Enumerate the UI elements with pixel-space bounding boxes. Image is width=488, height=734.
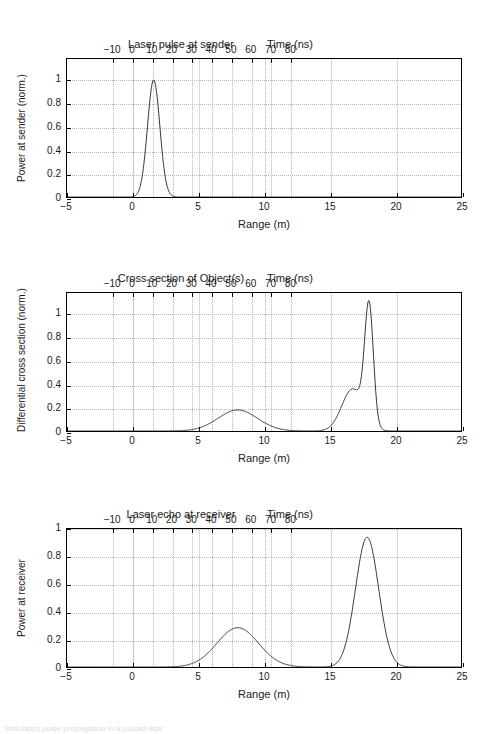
tick-label-bottom: 25 [447,435,477,446]
y-axis-label: Power at receiver [16,528,27,668]
tick-label-bottom: 5 [183,201,213,212]
bottom-axis-label: Range (m) [66,688,462,701]
curve-layer [67,59,461,197]
tick-label-bottom: 15 [315,201,345,212]
tick-label-top: 80 [275,514,305,525]
curve-layer [67,529,461,667]
tick-label-bottom: 10 [249,671,279,682]
tick-label-bottom: 25 [447,201,477,212]
y-axis-label: Power at sender (norm.) [16,58,27,198]
bottom-axis-label: Range (m) [66,218,462,231]
tick-mark-left [67,199,71,200]
panel-cross-section: Cross section of Object(s) Time (ns) Ran… [0,248,488,480]
panel-receiver: Laser echo at receiver Time (ns) Range (… [0,484,488,716]
curve-layer [67,293,461,431]
lidar-figure: Laser pulse at sender Time (ns) Range (m… [0,0,488,734]
plot-area [66,58,462,198]
tick-label-bottom: 5 [183,671,213,682]
tick-label-bottom: 0 [117,201,147,212]
tick-mark-left [67,433,71,434]
tick-label-bottom: 5 [183,435,213,446]
tick-label-bottom: 25 [447,671,477,682]
figure-caption: Simulated pulse propagation in a pulsed … [4,724,484,733]
tick-mark-bottom [463,663,464,667]
tick-label-top: 80 [275,44,305,55]
data-curve [67,537,461,667]
data-curve [67,301,461,431]
data-curve [67,80,461,197]
tick-label-bottom: 0 [117,435,147,446]
bottom-axis-label: Range (m) [66,452,462,465]
tick-label-bottom: 15 [315,671,345,682]
tick-label-bottom: 20 [381,671,411,682]
tick-label-bottom: 20 [381,201,411,212]
panel-sender: Laser pulse at sender Time (ns) Range (m… [0,14,488,246]
tick-label-bottom: 0 [117,671,147,682]
tick-mark-bottom [463,193,464,197]
tick-label-bottom: 15 [315,435,345,446]
y-axis-label: Differential cross section (norm.) [16,292,27,432]
tick-label-top: 80 [275,278,305,289]
plot-area [66,292,462,432]
tick-mark-bottom [463,427,464,431]
tick-label-bottom: 10 [249,201,279,212]
plot-area [66,528,462,668]
tick-label-bottom: 10 [249,435,279,446]
tick-mark-left [67,669,71,670]
tick-label-bottom: 20 [381,435,411,446]
